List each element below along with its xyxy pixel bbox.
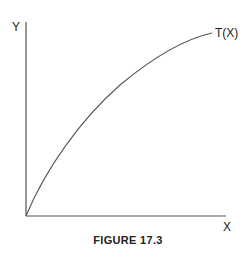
curve-tx [26, 33, 212, 216]
y-axis-label: Y [12, 20, 20, 34]
figure-canvas: Y X T(X) FIGURE 17.3 [0, 0, 248, 258]
curve-label: T(X) [215, 26, 238, 40]
figure-caption: FIGURE 17.3 [93, 234, 162, 246]
x-axis-label: X [223, 220, 231, 234]
